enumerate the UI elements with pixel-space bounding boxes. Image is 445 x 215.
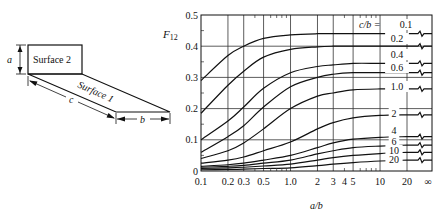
x-tick-label: 4 (342, 176, 347, 187)
x-tick-label: 0.3 (237, 176, 250, 187)
curve-label-2: 2 (392, 108, 397, 119)
arrow-b-left-icon (117, 117, 125, 122)
surface-2-label: Surface 2 (33, 54, 71, 65)
arrow-a-top-icon (18, 46, 23, 52)
y-axis-label: F12 (162, 28, 178, 42)
x-tick-label: 0.2 (222, 176, 235, 187)
dim-c-label: c (69, 94, 74, 105)
legend-title: c/b = (359, 19, 380, 30)
y-tick-label: 0.3 (186, 72, 199, 83)
curve-label-0.6: 0.6 (391, 62, 404, 73)
dim-a-label: a (7, 54, 12, 65)
x-tick-label: 20 (402, 176, 412, 187)
arrow-b-right-icon (161, 117, 169, 122)
x-tick-label: ∞ (424, 176, 431, 187)
y-tick-label: 0.4 (186, 41, 199, 52)
curve-label-1.0: 1.0 (391, 81, 404, 92)
arrow-a-bottom-icon (18, 67, 23, 73)
curve-label-0.2: 0.2 (391, 33, 404, 44)
surface-1-label: Surface 1 (76, 79, 115, 105)
y-tick-label: 0.5 (186, 10, 199, 21)
x-tick-label: 0.5 (257, 176, 270, 187)
x-tick-label: 1.0 (284, 176, 297, 187)
arrow-c-left-icon (29, 81, 38, 87)
x-axis-label: a/b (310, 200, 323, 211)
y-tick-label: 0.2 (186, 103, 199, 114)
arrow-c-right-icon (107, 113, 116, 119)
x-tick-label: 2 (315, 176, 320, 187)
curve-label-0.4: 0.4 (391, 49, 404, 60)
curve-label-20: 20 (389, 154, 399, 165)
x-tick-label: 10 (375, 176, 385, 187)
x-tick-label: 5 (351, 176, 356, 187)
y-tick-label: 0 (193, 166, 198, 177)
dim-b-label: b (140, 114, 145, 125)
curve-label-0.1: 0.1 (400, 19, 413, 30)
curve-label-4: 4 (392, 125, 397, 136)
x-tick-label: 3 (331, 176, 336, 187)
y-tick-label: 0.1 (186, 134, 199, 145)
figure: Surface 2 Surface 1 a c b 00.10.20.30.40… (0, 0, 445, 215)
x-tick-label: 0.1 (195, 176, 208, 187)
